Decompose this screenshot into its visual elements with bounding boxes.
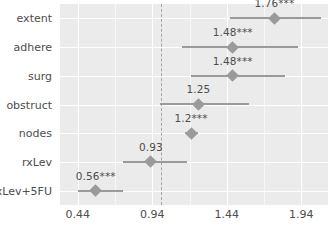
y-axis-label-nodes: nodes xyxy=(19,127,52,140)
estimate-value-label: 0.93 xyxy=(139,141,163,153)
estimate-point-marker xyxy=(226,69,239,82)
forest-row: 0.56*** xyxy=(60,176,328,205)
x-axis-tick-label: 1.94 xyxy=(289,208,314,221)
y-axis-label-rxlev-5fu: rxLev+5FU xyxy=(0,184,52,197)
estimate-value-label: 1.25 xyxy=(187,83,211,95)
estimate-point-marker xyxy=(226,41,239,54)
y-axis-label-surg: surg xyxy=(28,69,52,82)
y-axis-label-obstruct: obstruct xyxy=(6,98,52,111)
forest-plot: 1.76***1.48***1.48***1.251.2***0.930.56*… xyxy=(0,0,333,239)
forest-row: 1.2*** xyxy=(60,119,328,148)
y-axis-labels: extentadheresurgobstructnodesrxLevrxLev+… xyxy=(0,4,56,205)
estimate-value-label: 1.48*** xyxy=(213,26,253,38)
estimate-point-marker xyxy=(268,12,281,25)
x-axis-tick-label: 0.94 xyxy=(140,208,165,221)
estimate-value-label: 1.48*** xyxy=(213,55,253,67)
estimate-point-marker xyxy=(192,98,205,111)
y-axis-label-rxlev: rxLev xyxy=(22,155,52,168)
x-axis-tick-labels: 0.440.941.441.94 xyxy=(60,208,328,228)
y-axis-label-adhere: adhere xyxy=(13,41,52,54)
estimate-value-label: 1.2*** xyxy=(174,112,207,124)
estimate-value-label: 1.76*** xyxy=(254,0,294,9)
x-axis-tick-label: 1.44 xyxy=(215,208,240,221)
forest-row: 1.76*** xyxy=(60,4,328,33)
y-axis-label-extent: extent xyxy=(17,12,52,25)
forest-row: 1.48*** xyxy=(60,33,328,62)
estimate-point-marker xyxy=(185,127,198,140)
estimate-point-marker xyxy=(89,184,102,197)
confidence-interval-bar xyxy=(182,46,298,48)
x-axis-tick-label: 0.44 xyxy=(66,208,91,221)
estimate-value-label: 0.56*** xyxy=(76,170,116,182)
plot-panel: 1.76***1.48***1.48***1.251.2***0.930.56*… xyxy=(60,4,328,205)
estimate-point-marker xyxy=(144,156,157,169)
